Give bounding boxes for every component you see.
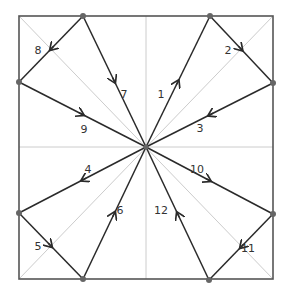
vertex-B1 (80, 276, 86, 282)
vertex-T2 (207, 13, 213, 19)
edge-label: 5 (35, 240, 42, 253)
edge-label: 6 (117, 204, 124, 217)
arrow-icon (176, 82, 178, 86)
arrow-icon (239, 47, 242, 50)
arrow-icon (206, 179, 210, 181)
arrow-icon (51, 46, 54, 49)
vertex-B2 (206, 277, 212, 283)
arrow-icon (113, 213, 115, 217)
edge-label: 12 (154, 204, 168, 217)
crease-diagram: 123456789101112 (0, 0, 289, 295)
edge-label: 2 (225, 44, 232, 57)
vertex-L2 (16, 210, 22, 216)
center-point (144, 145, 149, 150)
vertex-T1 (80, 13, 86, 19)
edge-label: 8 (35, 44, 42, 57)
arrow-icon (48, 243, 51, 246)
edge-label: 10 (190, 163, 204, 176)
edge-label: 1 (158, 88, 165, 101)
vertex-R1 (270, 80, 276, 86)
edge-label: 3 (197, 122, 204, 135)
arrow-icon (79, 113, 83, 115)
arrow-icon (210, 113, 214, 115)
arrow-icon (178, 214, 180, 218)
edge-label: 7 (121, 88, 128, 101)
arrow-icon (113, 78, 115, 82)
vertex-R2 (270, 211, 276, 217)
edge-label: 9 (81, 123, 88, 136)
edge-label: 11 (241, 242, 255, 255)
vertex-L1 (16, 79, 22, 85)
edge-label: 4 (85, 163, 92, 176)
arrow-icon (83, 178, 87, 180)
